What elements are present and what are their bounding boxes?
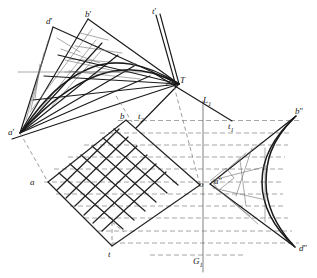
label-o: o bbox=[199, 180, 204, 189]
label-b-prime: b′ bbox=[85, 10, 91, 19]
rotated-square-grid bbox=[48, 120, 200, 246]
vertical-axis-L1-G1 bbox=[203, 101, 265, 272]
label-t1: t1 bbox=[228, 122, 234, 133]
geometry-canvas: .solid { stroke:#1a1a1a; stroke-width:1.… bbox=[0, 0, 317, 278]
label-b: b bbox=[120, 112, 125, 121]
label-d-double-prime: d″ bbox=[299, 244, 307, 253]
label-a: a bbox=[30, 178, 35, 187]
label-t: t bbox=[108, 250, 111, 259]
label-a-prime: a′ bbox=[8, 128, 14, 137]
label-L1: L1 bbox=[203, 96, 211, 107]
label-a-double-prime: a″ bbox=[214, 177, 222, 186]
right-envelope-astroid bbox=[210, 116, 296, 247]
label-T: T bbox=[180, 76, 185, 85]
left-envelope-fan bbox=[18, 19, 179, 133]
label-G1: G1 bbox=[193, 257, 203, 268]
label-d-prime: d′ bbox=[46, 17, 52, 26]
label-c-prime: c′ bbox=[166, 80, 171, 88]
geometry-figure: .solid { stroke:#1a1a1a; stroke-width:1.… bbox=[0, 0, 317, 278]
label-b-double-prime: b″ bbox=[295, 107, 303, 116]
label-t-prime: t′ bbox=[152, 7, 156, 16]
label-t2: t2 bbox=[138, 112, 144, 123]
